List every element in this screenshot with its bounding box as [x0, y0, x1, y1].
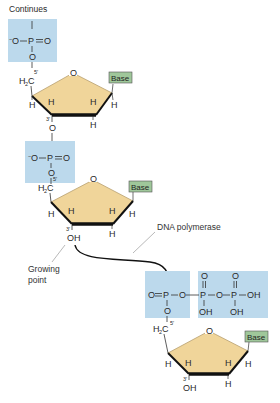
svg-text:H: H: [225, 358, 232, 368]
svg-text:H: H: [165, 359, 172, 369]
svg-text:O: O: [63, 153, 70, 163]
svg-text:H: H: [90, 97, 97, 107]
svg-text:H: H: [68, 206, 75, 216]
svg-text:H: H: [48, 97, 55, 107]
svg-text:C: C: [47, 183, 54, 193]
svg-text:OH: OH: [183, 383, 197, 393]
svg-text:O: O: [201, 271, 208, 281]
svg-text:H: H: [129, 209, 136, 219]
svg-text:O: O: [148, 290, 155, 300]
svg-text:H: H: [225, 379, 232, 389]
top-deoxyribose-sugar: O H H: [32, 68, 112, 115]
svg-text:OH: OH: [230, 307, 244, 317]
svg-text:O: O: [90, 174, 97, 184]
svg-text:point: point: [28, 275, 47, 285]
svg-text:Base: Base: [131, 183, 150, 192]
svg-text:O: O: [70, 68, 77, 78]
svg-text:P: P: [28, 36, 34, 46]
svg-text:O: O: [29, 52, 36, 62]
svg-text:H: H: [109, 206, 116, 216]
svg-text:P: P: [231, 290, 237, 300]
dna-polymerase-label: DNA polymerase: [157, 222, 221, 232]
svg-text:O: O: [164, 306, 171, 316]
svg-text:H: H: [29, 100, 36, 110]
growing-3prime-oh: OH: [67, 233, 81, 243]
svg-text:OH: OH: [247, 290, 261, 300]
svg-text:OH: OH: [199, 307, 213, 317]
svg-text:5′: 5′: [170, 320, 174, 326]
svg-text:H: H: [90, 120, 97, 130]
svg-text:Base: Base: [111, 74, 130, 83]
svg-text:Base: Base: [247, 333, 266, 342]
continues-label: Continues: [9, 4, 47, 14]
svg-text:H: H: [48, 209, 55, 219]
svg-text:C: C: [162, 324, 169, 334]
svg-text:5′: 5′: [53, 176, 57, 182]
base-box: Base: [129, 181, 152, 192]
svg-text:P: P: [47, 153, 53, 163]
svg-text:H: H: [109, 229, 116, 239]
svg-text:O: O: [31, 153, 38, 163]
svg-text:O: O: [44, 36, 51, 46]
svg-text:H: H: [245, 359, 252, 369]
svg-text:O: O: [179, 290, 186, 300]
svg-text:H: H: [185, 358, 192, 368]
base-box: Base: [245, 331, 268, 342]
svg-text:C: C: [28, 76, 35, 86]
svg-text:O: O: [232, 271, 239, 281]
growing-point-label: Growing: [28, 264, 60, 274]
svg-text:3′: 3′: [66, 226, 70, 232]
base-box: Base: [109, 72, 132, 83]
svg-text:3′: 3′: [46, 116, 50, 122]
top-phosphate-group: − O P O O: [8, 19, 57, 62]
svg-text:O: O: [216, 290, 223, 300]
middle-phosphate-group: − O P O O: [25, 141, 75, 183]
svg-text:P: P: [163, 290, 169, 300]
svg-text:O: O: [206, 326, 213, 336]
incoming-deoxyribose-sugar: O H H: [168, 326, 248, 374]
incoming-triphosphate: O P O O P O OH O P O OH OH: [145, 271, 268, 318]
dna-polymerase-diagram: Continues − O P O O 5′ H 2 C O H H H H B…: [0, 0, 280, 403]
svg-text:3′: 3′: [183, 376, 187, 382]
svg-text:O: O: [12, 36, 19, 46]
svg-text:P: P: [200, 290, 206, 300]
svg-text:O: O: [49, 123, 56, 133]
svg-text:5′: 5′: [34, 69, 38, 75]
svg-text:H: H: [111, 100, 118, 110]
